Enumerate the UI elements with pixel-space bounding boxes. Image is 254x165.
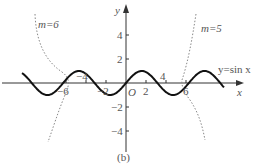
y-tick-label: 4 bbox=[117, 29, 123, 41]
x-tick-label: −6 bbox=[57, 85, 69, 97]
x-tick-label: −4 bbox=[76, 70, 88, 82]
y-tick-label: −2 bbox=[111, 101, 123, 113]
x-axis-label: x bbox=[236, 86, 242, 98]
annotation-m5: m=5 bbox=[201, 22, 222, 34]
annotation-m6: m=6 bbox=[38, 18, 59, 30]
annotation-sin: y=sin x bbox=[218, 63, 251, 75]
curve-m6 bbox=[35, 14, 68, 142]
x-tick-label: 6 bbox=[183, 85, 189, 97]
origin-label: O bbox=[128, 86, 136, 98]
x-tick-label: 2 bbox=[143, 85, 149, 97]
figure-caption: (b) bbox=[117, 151, 130, 164]
x-tick-label: 4 bbox=[160, 70, 166, 82]
y-axis-label: y bbox=[114, 4, 120, 16]
x-tick-label: −2 bbox=[97, 85, 109, 97]
chart: −6 −4 −2 2 4 6 4 2 −2 −4 x y O m=6 m=5 y… bbox=[0, 0, 254, 165]
y-tick-label: −4 bbox=[111, 125, 123, 137]
y-axis-arrow-icon bbox=[123, 4, 129, 13]
y-tick-label: 2 bbox=[117, 53, 123, 65]
